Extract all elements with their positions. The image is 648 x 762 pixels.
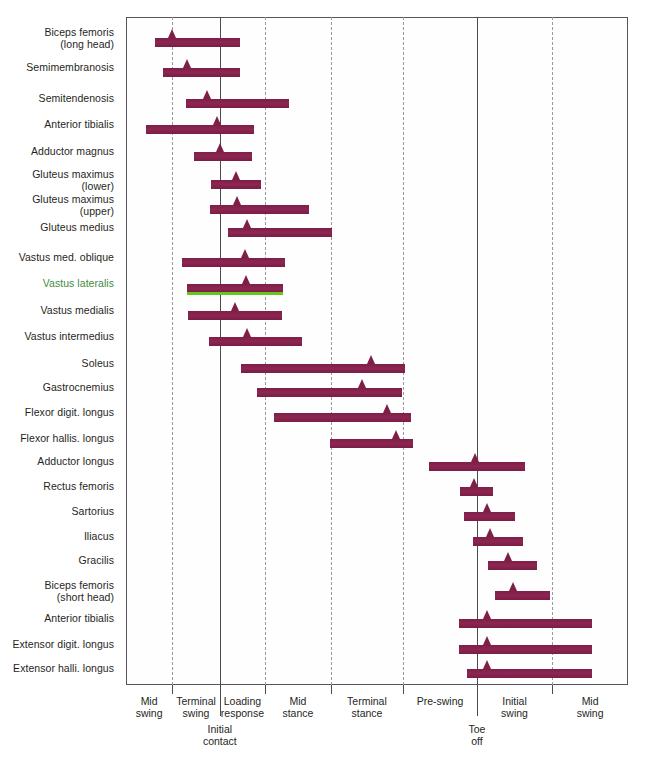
activity-bar — [473, 537, 523, 546]
peak-marker — [203, 90, 211, 99]
peak-marker — [233, 196, 241, 205]
muscle-label-vastus-medialis: Vastus medialis — [40, 305, 114, 317]
gridline-0 — [172, 17, 173, 685]
peak-marker — [504, 552, 512, 561]
activity-bar — [155, 38, 240, 47]
activity-bar — [464, 512, 515, 521]
activity-bar — [146, 125, 254, 134]
activity-bar — [488, 561, 537, 570]
activity-bar — [467, 669, 592, 678]
muscle-label-extensor-digit-longus: Extensor digit. longus — [13, 639, 115, 651]
event-label-toe-off: Toe off — [432, 723, 522, 747]
gridline-tick — [403, 685, 404, 694]
activity-bar — [330, 439, 413, 448]
peak-marker — [483, 503, 491, 512]
activity-bar — [274, 413, 411, 422]
peak-marker — [509, 582, 517, 591]
activity-bar — [211, 180, 261, 189]
muscle-label-vastus-med-oblique: Vastus med. oblique — [19, 252, 114, 264]
phase-label-loading-response: Loading response — [220, 695, 265, 719]
muscle-label-flexor-digit-longus: Flexor digit. longus — [25, 407, 114, 419]
phase-label-mid-stance: Mid stance — [265, 695, 331, 719]
muscle-label-adductor-longus: Adductor longus — [37, 456, 114, 468]
peak-marker — [242, 275, 250, 284]
activity-bar — [460, 487, 493, 496]
activity-bar — [194, 152, 252, 161]
peak-marker — [243, 219, 251, 228]
phase-label-initial-swing: Initial swing — [477, 695, 552, 719]
muscle-label-biceps-femoris: Biceps femoris (short head) — [44, 580, 114, 603]
muscle-label-adductor-magnus: Adductor magnus — [31, 146, 114, 158]
activity-bar — [459, 645, 592, 654]
peak-marker — [483, 636, 491, 645]
peak-marker — [183, 59, 191, 68]
activity-bar — [495, 591, 550, 600]
muscle-label-extensor-halli-longus: Extensor halli. longus — [13, 663, 114, 675]
highlight-underline — [187, 292, 283, 295]
gait-cycle-muscle-activity-chart: Biceps femoris (long head)Semimembranosi… — [0, 0, 648, 762]
gridline-4 — [403, 17, 404, 685]
muscle-label-gastrocnemius: Gastrocnemius — [43, 382, 114, 394]
activity-bar — [163, 68, 240, 77]
activity-bar — [429, 462, 525, 471]
phase-label-terminal-stance: Terminal stance — [331, 695, 403, 719]
phase-label-mid-swing: Mid swing — [126, 695, 172, 719]
muscle-label-anterior-tibialis: Anterior tibialis — [44, 613, 114, 625]
peak-marker — [383, 404, 391, 413]
peak-marker — [486, 528, 494, 537]
muscle-label-flexor-hallis-longus: Flexor hallis. longus — [20, 433, 114, 445]
muscle-label-sartorius: Sartorius — [72, 506, 114, 518]
peak-marker — [471, 453, 479, 462]
activity-bar — [459, 619, 592, 628]
gridline-tick — [265, 685, 266, 694]
phase-label-terminal-swing: Terminal swing — [172, 695, 220, 719]
muscle-label-semitendenosis: Semitendenosis — [39, 93, 114, 105]
gridline-3 — [331, 17, 332, 685]
gridline-6 — [552, 17, 553, 685]
activity-bar — [228, 228, 332, 237]
event-label-initial-contact: Initial contact — [175, 723, 265, 747]
gridline-tick — [552, 685, 553, 694]
peak-marker — [367, 355, 375, 364]
activity-bar — [186, 99, 289, 108]
muscle-label-gracilis: Gracilis — [79, 555, 114, 567]
peak-marker — [483, 610, 491, 619]
peak-marker — [241, 249, 249, 258]
activity-bar — [188, 311, 282, 320]
gridline-2 — [265, 17, 266, 685]
muscle-label-gluteus-maximus: Gluteus maximus (lower) — [32, 169, 114, 192]
activity-bar — [182, 258, 285, 267]
gridline-tick — [172, 685, 173, 694]
muscle-label-gluteus-medius: Gluteus medius — [40, 222, 114, 234]
peak-marker — [232, 171, 240, 180]
peak-marker — [243, 328, 251, 337]
peak-marker — [168, 29, 176, 38]
activity-bar — [241, 364, 405, 373]
muscle-label-rectus-femoris: Rectus femoris — [43, 481, 114, 493]
muscle-label-gluteus-maximus: Gluteus maximus (upper) — [32, 194, 114, 217]
peak-marker — [483, 660, 491, 669]
peak-marker — [231, 302, 239, 311]
muscle-label-soleus: Soleus — [82, 358, 114, 370]
gridline-toe-off — [477, 17, 478, 685]
muscle-label-anterior-tibialis: Anterior tibialis — [44, 119, 114, 131]
activity-bar — [209, 337, 302, 346]
peak-marker — [358, 379, 366, 388]
peak-marker — [213, 116, 221, 125]
phase-label-mid-swing: Mid swing — [552, 695, 628, 719]
muscle-label-vastus-lateralis: Vastus lateralis — [43, 278, 114, 290]
muscle-label-vastus-intermedius: Vastus intermedius — [25, 331, 114, 343]
phase-label-pre-swing: Pre-swing — [403, 695, 477, 707]
muscle-label-biceps-femoris: Biceps femoris (long head) — [44, 27, 114, 50]
gridline-tick — [331, 685, 332, 694]
activity-bar — [210, 205, 309, 214]
peak-marker — [470, 478, 478, 487]
muscle-label-semimembranosis: Semimembranosis — [26, 62, 114, 74]
activity-bar — [257, 388, 402, 397]
peak-marker — [392, 430, 400, 439]
peak-marker — [216, 143, 224, 152]
muscle-label-iliacus: Iliacus — [84, 531, 114, 543]
